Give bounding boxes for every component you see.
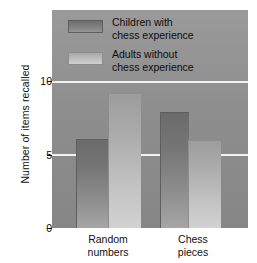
x-tick-label-chess-pieces-line1: Chess [153, 233, 233, 246]
legend-label-children-line1: Children with [112, 16, 194, 29]
y-tick-mark-0 [47, 228, 52, 229]
legend-label-children: Children with chess experience [112, 16, 194, 41]
bar-children-chess-pieces [160, 112, 189, 228]
legend-swatch-adults [68, 52, 103, 65]
bar-chart: Number of items recalled 10 5 0 Children… [0, 0, 257, 263]
legend-label-adults-line1: Adults without [112, 48, 194, 61]
x-tick-label-random-numbers-line2: numbers [68, 246, 148, 259]
legend-swatch-children [68, 20, 103, 33]
x-tick-label-chess-pieces: Chess pieces [153, 233, 233, 259]
x-tick-label-random-numbers-line1: Random [68, 233, 148, 246]
legend-label-adults-line2: chess experience [112, 61, 194, 74]
y-axis-ticks: 10 5 0 [22, 0, 52, 263]
x-tick-label-random-numbers: Random numbers [68, 233, 148, 259]
legend-label-children-line2: chess experience [112, 29, 194, 42]
bar-adults-random-numbers [108, 93, 141, 228]
bar-adults-chess-pieces [188, 140, 221, 228]
legend-label-adults: Adults without chess experience [112, 48, 194, 73]
plot-area: Children with chess experience Adults wi… [52, 10, 248, 228]
x-tick-label-chess-pieces-line2: pieces [153, 246, 233, 259]
gridline-10 [52, 81, 248, 83]
bar-children-random-numbers [76, 139, 109, 228]
